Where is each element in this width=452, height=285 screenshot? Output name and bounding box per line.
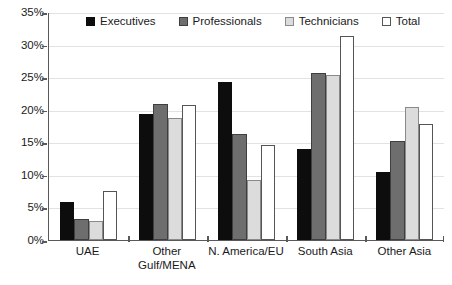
bar-total — [103, 191, 117, 240]
bar-technicians — [168, 118, 182, 240]
x-axis-labels: UAEOther Gulf/MENAN. America/EUSouth Asi… — [48, 245, 444, 272]
bar-technicians — [89, 221, 103, 240]
bar-professionals — [74, 219, 88, 240]
y-tick-mark — [42, 208, 47, 210]
y-axis: 0%5%10%15%20%25%30%35% — [0, 0, 44, 285]
y-tick-mark — [42, 143, 47, 145]
y-tick-label: 35% — [2, 7, 44, 19]
legend-item[interactable]: Technicians — [285, 16, 359, 28]
bar-group — [286, 13, 365, 240]
bar-total — [261, 145, 275, 240]
bar-groups — [49, 13, 444, 240]
bar-executives — [139, 114, 153, 240]
y-tick-label: 10% — [2, 170, 44, 182]
bar-total — [419, 124, 433, 240]
bar-group — [365, 13, 444, 240]
y-tick-label: 25% — [2, 72, 44, 84]
bar-group-inner — [376, 13, 434, 240]
x-tick-mark — [443, 236, 445, 242]
x-tick-mark — [128, 236, 130, 242]
legend-label: Total — [396, 16, 420, 28]
bar-technicians — [247, 180, 261, 240]
bar-technicians — [405, 107, 419, 240]
bar-professionals — [232, 134, 246, 240]
x-axis-label: Other Asia — [365, 245, 444, 272]
bar-executives — [60, 202, 74, 240]
bar-total — [182, 105, 196, 240]
legend-label: Professionals — [193, 16, 262, 28]
bar-executives — [218, 82, 232, 240]
y-tick-mark — [42, 78, 47, 80]
legend-item[interactable]: Professionals — [179, 16, 262, 28]
bar-executives — [376, 172, 390, 240]
x-tick-mark — [286, 236, 288, 242]
bar-professionals — [390, 141, 404, 240]
bar-group-inner — [297, 13, 355, 240]
legend-label: Executives — [100, 16, 156, 28]
y-tick-label: 20% — [2, 105, 44, 117]
legend-swatch-icon — [382, 17, 391, 26]
bar-technicians — [326, 75, 340, 240]
x-axis-label: Other Gulf/MENA — [127, 245, 206, 272]
chart-legend: ExecutivesProfessionalsTechniciansTotal — [86, 16, 420, 28]
y-tick-mark — [42, 176, 47, 178]
bar-total — [340, 36, 354, 240]
y-tick-mark — [42, 13, 47, 15]
y-tick-label: 5% — [2, 202, 44, 214]
x-axis-label: South Asia — [286, 245, 365, 272]
bar-group-inner — [218, 13, 276, 240]
y-tick-label: 30% — [2, 40, 44, 52]
bar-group-inner — [139, 13, 197, 240]
x-tick-mark — [365, 236, 367, 242]
bar-executives — [297, 149, 311, 240]
plot-area — [48, 13, 444, 241]
bar-chart: 0%5%10%15%20%25%30%35% UAEOther Gulf/MEN… — [0, 0, 452, 285]
y-tick-mark — [42, 46, 47, 48]
bar-group — [128, 13, 207, 240]
legend-label: Technicians — [299, 16, 359, 28]
legend-swatch-icon — [179, 17, 188, 26]
bar-group-inner — [60, 13, 118, 240]
x-axis-label: N. America/EU — [206, 245, 285, 272]
y-tick-label: 15% — [2, 137, 44, 149]
bar-group — [49, 13, 128, 240]
y-tick-mark — [42, 241, 47, 243]
bar-professionals — [311, 73, 325, 240]
legend-swatch-icon — [285, 17, 294, 26]
legend-item[interactable]: Total — [382, 16, 420, 28]
y-tick-label: 0% — [2, 235, 44, 247]
legend-swatch-icon — [86, 17, 95, 26]
x-tick-mark — [207, 236, 209, 242]
bar-group — [207, 13, 286, 240]
bar-professionals — [153, 104, 167, 240]
legend-item[interactable]: Executives — [86, 16, 156, 28]
y-tick-mark — [42, 111, 47, 113]
x-axis-label: UAE — [48, 245, 127, 272]
